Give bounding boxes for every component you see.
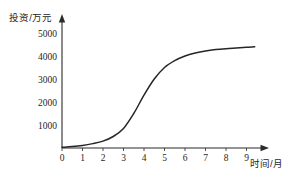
y-tick-labels: 1000 2000 3000 4000 5000 — [38, 29, 57, 131]
investment-time-line-chart: 投资/万元 时间/月 1000 2000 3000 4000 5000 — [0, 0, 300, 177]
chart-figure: 投资/万元 时间/月 1000 2000 3000 4000 5000 — [0, 0, 300, 177]
y-axis — [59, 14, 65, 148]
x-tick-label: 6 — [183, 153, 188, 163]
y-axis-arrow-icon — [59, 14, 65, 23]
x-tick-label: 5 — [162, 153, 167, 163]
x-tick-label: 0 — [60, 153, 65, 163]
x-axis-title: 时间/月 — [250, 158, 283, 169]
y-tick-label: 2000 — [38, 98, 57, 108]
x-axis-arrow-icon — [261, 145, 270, 151]
x-tick-label: 8 — [224, 153, 229, 163]
y-axis-title: 投资/万元 — [9, 12, 52, 23]
x-axis — [62, 145, 269, 151]
y-tick-label: 1000 — [38, 121, 57, 131]
x-tick-label: 9 — [244, 153, 249, 163]
x-tick-label: 2 — [101, 153, 106, 163]
y-tick-label: 3000 — [38, 75, 57, 85]
x-tick-label: 3 — [121, 153, 126, 163]
investment-curve — [62, 47, 255, 148]
x-tick-labels: 0 1 2 3 4 5 6 7 8 9 — [60, 153, 250, 163]
x-tick-label: 7 — [203, 153, 208, 163]
y-tick-label: 5000 — [38, 29, 57, 39]
x-tick-label: 1 — [80, 153, 85, 163]
x-tick-label: 4 — [142, 153, 147, 163]
y-tick-label: 4000 — [38, 52, 57, 62]
